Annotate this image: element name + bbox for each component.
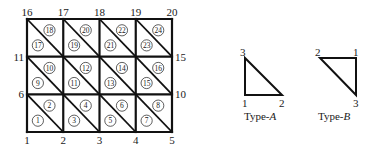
- element-number-badge: 14: [116, 62, 127, 73]
- element-number: 5: [109, 116, 113, 125]
- type-b-vertex-1: 1: [353, 46, 359, 58]
- element-number-badge: 13: [105, 77, 116, 88]
- type-a-triangle: 3 1 2 Type-A: [240, 46, 285, 122]
- node-label-top: 17: [58, 6, 70, 18]
- type-b-caption: Type-B: [318, 110, 351, 122]
- element-diagonal: [100, 94, 136, 132]
- fem-mesh-diagram: 123456789101112131415161718192021222324 …: [0, 0, 374, 152]
- node-label-bottom: 1: [24, 134, 30, 146]
- element-number-badge: 3: [69, 115, 80, 126]
- element-number-badge: 4: [80, 100, 91, 111]
- element-diagonal: [63, 94, 99, 132]
- element-number: 15: [143, 79, 151, 88]
- element-number-badge: 22: [116, 25, 127, 36]
- element-diagonal: [136, 19, 172, 57]
- element-number: 4: [84, 101, 88, 110]
- element-number: 20: [82, 26, 90, 35]
- element-number: 10: [46, 64, 54, 73]
- element-number: 18: [46, 26, 54, 35]
- node-label-bottom: 5: [169, 134, 175, 146]
- element-number: 19: [70, 41, 78, 50]
- type-a-vertex-1: 1: [242, 97, 248, 109]
- element-number: 11: [71, 79, 78, 88]
- element-number: 14: [118, 64, 126, 73]
- element-number: 1: [36, 116, 40, 125]
- element-diagonal: [100, 57, 136, 95]
- node-label-bottom: 3: [97, 134, 103, 146]
- node-label-bottom: 2: [61, 134, 67, 146]
- element-diagonal: [63, 57, 99, 95]
- element-number-badge: 9: [32, 77, 43, 88]
- element-number: 12: [82, 64, 90, 73]
- element-diagonal: [100, 19, 136, 57]
- node-label-right: 10: [175, 88, 187, 100]
- element-number-badge: 20: [80, 25, 91, 36]
- node-label-right: 15: [175, 51, 187, 63]
- element-number: 13: [107, 79, 115, 88]
- element-number-badge: 17: [32, 40, 43, 51]
- element-number: 9: [36, 79, 40, 88]
- type-a-outline: [245, 58, 282, 95]
- element-number-badge: 6: [116, 100, 127, 111]
- element-diagonal: [27, 57, 63, 95]
- type-a-vertex-3: 3: [240, 46, 246, 58]
- element-number-badge: 8: [153, 100, 164, 111]
- node-label-left: 6: [19, 88, 25, 100]
- element-number: 22: [118, 26, 126, 35]
- node-label-bottom: 4: [133, 134, 139, 146]
- element-diagonal: [136, 57, 172, 95]
- node-label-top: 18: [94, 6, 106, 18]
- element-number: 7: [145, 116, 149, 125]
- element-diagonal: [136, 94, 172, 132]
- node-label-top: 19: [130, 6, 142, 18]
- element-number-badge: 11: [69, 77, 80, 88]
- element-number: 8: [156, 101, 160, 110]
- element-number: 6: [120, 101, 124, 110]
- node-label-top: 20: [167, 6, 179, 18]
- element-diagonal: [63, 19, 99, 57]
- element-number-badge: 15: [141, 77, 152, 88]
- type-b-vertex-2: 2: [315, 46, 321, 58]
- element-number-badge: 7: [141, 115, 152, 126]
- type-b-outline: [320, 58, 356, 95]
- element-number-badge: 16: [153, 62, 164, 73]
- type-b-triangle: 2 1 3 Type-B: [315, 46, 359, 122]
- element-number-badge: 21: [105, 40, 116, 51]
- type-b-vertex-3: 3: [353, 97, 359, 109]
- element-number-badge: 10: [44, 62, 55, 73]
- element-number: 24: [154, 26, 162, 35]
- element-number-badge: 5: [105, 115, 116, 126]
- element-number-badge: 24: [153, 25, 164, 36]
- triangular-mesh: 123456789101112131415161718192021222324: [27, 19, 172, 132]
- element-number-badge: 1: [32, 115, 43, 126]
- element-number: 2: [48, 101, 52, 110]
- type-a-vertex-2: 2: [279, 97, 285, 109]
- element-number-badge: 18: [44, 25, 55, 36]
- element-diagonal: [27, 19, 63, 57]
- element-number-badge: 23: [141, 40, 152, 51]
- type-a-caption: Type-A: [244, 110, 277, 122]
- node-label-top: 16: [22, 6, 34, 18]
- node-label-left: 11: [13, 51, 24, 63]
- element-number-badge: 19: [69, 40, 80, 51]
- element-diagonal: [27, 94, 63, 132]
- element-number: 16: [154, 64, 162, 73]
- element-number-badge: 12: [80, 62, 91, 73]
- element-number-badge: 2: [44, 100, 55, 111]
- element-number: 3: [72, 116, 76, 125]
- element-number: 23: [143, 41, 151, 50]
- element-number: 17: [34, 41, 42, 50]
- element-number: 21: [107, 41, 115, 50]
